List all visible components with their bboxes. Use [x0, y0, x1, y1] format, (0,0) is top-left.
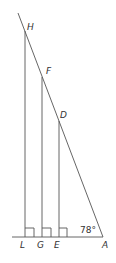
geometry-diagram: H F D L G E A 78°: [0, 0, 116, 263]
label-F: F: [46, 66, 52, 76]
angle-A-label: 78°: [80, 225, 96, 235]
label-A: A: [101, 240, 108, 250]
label-D: D: [60, 110, 67, 120]
right-angle-marker-G: [42, 228, 51, 237]
label-L: L: [20, 240, 25, 250]
label-H: H: [27, 22, 34, 32]
right-angle-marker-L: [25, 228, 34, 237]
label-G: G: [37, 240, 44, 250]
transversal-line: [18, 13, 103, 237]
label-E: E: [54, 240, 60, 250]
right-angle-marker-E: [59, 228, 67, 237]
